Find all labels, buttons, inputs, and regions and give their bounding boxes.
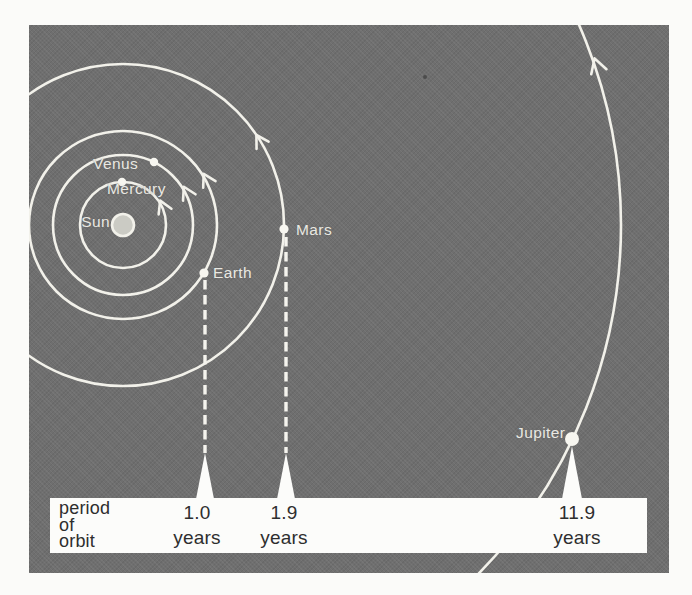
earth-label: Earth [213,264,252,282]
earth-period-number: 1.0 [173,501,220,526]
mars-period-number: 1.9 [260,501,307,526]
solar-system-figure: Sun Mercury Venus Earth Mars Jupiter per… [29,25,669,573]
panel-heading: period of orbit [59,500,110,550]
mars-dot [279,224,288,233]
sun-label: Sun [75,213,110,231]
jupiter-period-unit: years [553,526,600,551]
jupiter-orbit [29,25,621,573]
earth-period-value: 1.0 years [173,501,220,550]
jupiter-period-number: 11.9 [553,501,600,526]
speck-artifact [423,75,427,79]
mars-label: Mars [296,221,332,239]
mercury-label: Mercury [107,180,166,198]
earth-period-pointer [196,453,214,499]
earth-dot [199,268,208,277]
period-of-orbit-panel: period of orbit 1.0 years 1.9 years 11.9… [50,498,647,553]
mars-period-value: 1.9 years [260,501,307,550]
jupiter-label: Jupiter [516,424,565,442]
page: { "diagram": { "title": "planetary orbit… [0,0,692,595]
jupiter-period-value: 11.9 years [553,501,600,550]
sun [112,214,134,236]
mars-period-pointer [277,453,295,499]
orbit-graphics [29,25,669,573]
earth-period-unit: years [173,526,220,551]
mars-period-unit: years [260,526,307,551]
venus-label: Venus [93,155,138,173]
jupiter-dot [565,432,579,446]
mars-orbit [29,64,284,386]
venus-dot [150,158,158,166]
panel-heading-line-3: orbit [59,533,110,550]
